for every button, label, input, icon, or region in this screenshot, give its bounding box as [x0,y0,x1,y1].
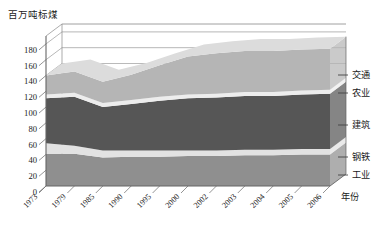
y-tick-label: 120 [24,92,37,102]
y-tick-label: 100 [24,108,37,118]
x-tick-label: 2005 [277,192,295,210]
legend-label-农业: 农业 [352,87,370,98]
y-tick-label: 80 [28,124,37,134]
x-axis-title: 年份 [341,191,359,202]
area-band-2 [46,94,330,151]
legend-label-建筑: 建筑 [352,119,370,130]
x-tick-label: 1990 [107,192,125,210]
area-band-0 [46,154,330,186]
y-axis-ticks: 020406080100120140160180 [24,44,46,197]
y-tick-label: 140 [24,76,37,86]
y-tick-label: 180 [24,45,37,55]
y-tick-label: 60 [28,140,37,150]
x-tick-label: 2006 [305,192,323,210]
x-tick-label: 2004 [249,192,267,210]
legend-label-钢铁: 钢铁 [352,151,370,162]
chart-title: 百万吨标煤 [8,9,58,20]
legend-label-工业: 工业 [352,170,370,180]
y-tick-label: 20 [28,171,37,181]
x-axis-ticks: 1973197919851990199520002002200320042005… [21,186,330,210]
x-tick-label: 2000 [163,192,181,210]
x-tick-label: 1995 [135,192,153,210]
x-tick-label: 1979 [50,192,68,210]
chart-root: 百万吨标煤 020406080100120140160180 197319791… [0,0,387,234]
y-tick-label: 160 [24,61,37,71]
y-tick-label: 40 [28,155,37,165]
x-tick-label: 1985 [78,192,96,210]
legend-label-交通: 交通 [352,69,370,80]
stacked-area-chart: 百万吨标煤 020406080100120140160180 197319791… [0,0,387,234]
x-tick-label: 2003 [220,192,238,210]
x-tick-label: 2002 [192,192,210,210]
